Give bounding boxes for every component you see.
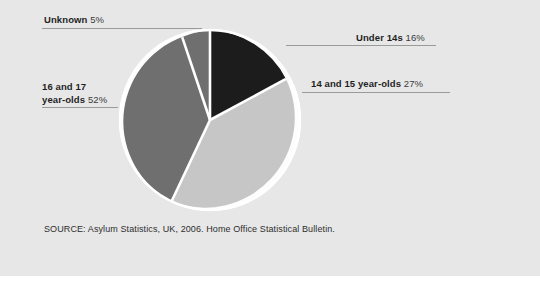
pie-chart: [118, 28, 302, 212]
callout-unknown-value: 5%: [90, 14, 104, 25]
callout-under-14s-value: 16%: [406, 32, 425, 43]
pie-chart-svg: [118, 28, 302, 212]
callout-unknown: Unknown 5%: [44, 14, 104, 25]
chart-title: [60, 0, 480, 4]
callout-16-and-17-label: 16 and 17: [42, 81, 86, 92]
callout-16-and-17-line1: 16 and 17: [42, 80, 107, 93]
source-note: SOURCE: Asylum Statistics, UK, 2006. Hom…: [44, 224, 335, 234]
callout-14-and-15: 14 and 15 year-olds 27%: [311, 78, 423, 89]
leader-line-16-and-17: [42, 107, 118, 108]
callout-unknown-label: Unknown: [44, 14, 87, 25]
figure-panel: Unknown 5% Under 14s 16% 14 and 15 year-…: [0, 0, 540, 276]
callout-14-and-15-label: 14 and 15 year-olds: [311, 78, 401, 89]
leader-line-under-14s: [286, 45, 436, 46]
leader-line-unknown: [42, 28, 202, 29]
callout-14-and-15-value: 27%: [404, 78, 423, 89]
callout-16-and-17-label-2: year-olds: [42, 94, 85, 105]
callout-16-and-17-value: 52%: [88, 94, 107, 105]
callout-under-14s: Under 14s 16%: [356, 32, 425, 43]
callout-under-14s-label: Under 14s: [356, 32, 403, 43]
leader-line-14-and-15: [302, 92, 450, 93]
callout-16-and-17: 16 and 17 year-olds 52%: [42, 80, 107, 106]
callout-16-and-17-line2: year-olds 52%: [42, 93, 107, 106]
